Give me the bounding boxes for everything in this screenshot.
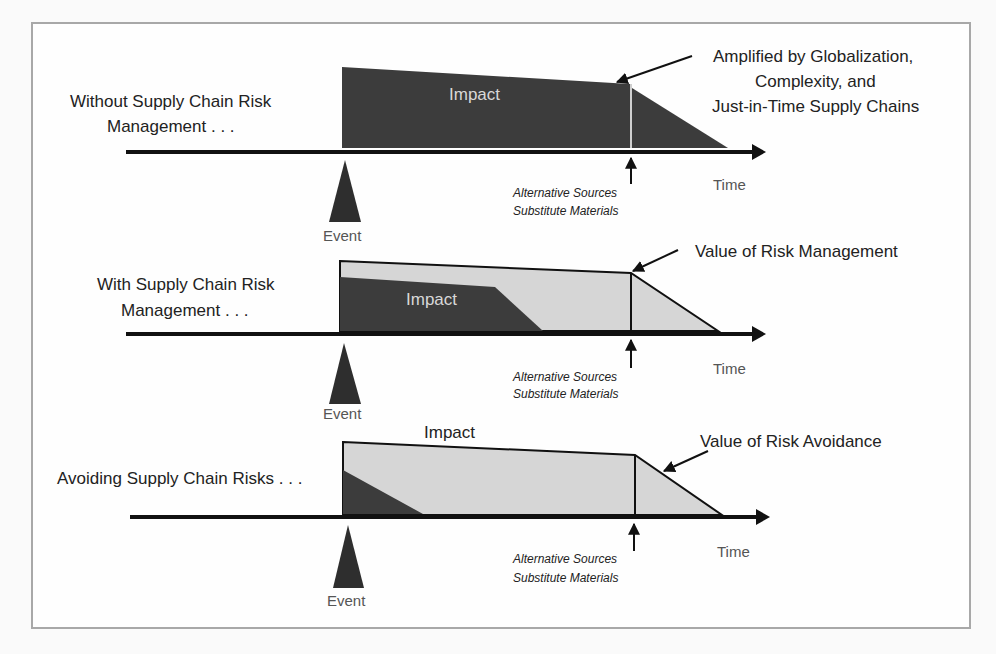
callout-line3: Just-in-Time Supply Chains xyxy=(712,97,919,116)
impact-label: Impact xyxy=(406,290,457,309)
panel-without-risk-management: Without Supply Chain Risk Management . .… xyxy=(70,47,919,244)
panel-title-line1: Without Supply Chain Risk xyxy=(70,92,272,111)
alt-sources-label-line1: Alternative Sources xyxy=(512,552,617,566)
callout-arrow-icon xyxy=(617,56,692,82)
event-label: Event xyxy=(323,405,362,422)
panel-title-line2: Management . . . xyxy=(121,301,249,320)
callout-line1: Value of Risk Management xyxy=(695,242,898,261)
panel-title-line1: With Supply Chain Risk xyxy=(97,275,275,294)
event-triangle-icon xyxy=(333,525,364,588)
event-label: Event xyxy=(327,592,366,609)
panel-with-risk-management: With Supply Chain Risk Management . . . … xyxy=(97,242,898,422)
impact-area xyxy=(342,67,630,148)
alt-sources-label-line2: Substitute Materials xyxy=(513,204,618,218)
alt-sources-label-line2: Substitute Materials xyxy=(513,387,618,401)
callout-arrow-icon xyxy=(633,250,678,271)
panel-title-line2: Management . . . xyxy=(107,117,235,136)
time-axis-arrowhead-icon xyxy=(752,326,766,342)
alt-sources-label-line1: Alternative Sources xyxy=(512,370,617,384)
time-label: Time xyxy=(713,360,746,377)
time-label: Time xyxy=(713,176,746,193)
impact-label: Impact xyxy=(424,423,475,442)
time-axis-arrowhead-icon xyxy=(756,509,770,525)
event-triangle-icon xyxy=(329,160,361,222)
callout-line1: Amplified by Globalization, xyxy=(713,47,913,66)
panel-avoiding-risks: Avoiding Supply Chain Risks . . . Impact… xyxy=(57,423,882,609)
risk-timeline-diagram: Without Supply Chain Risk Management . .… xyxy=(0,0,996,654)
time-axis-arrowhead-icon xyxy=(752,144,766,160)
event-label: Event xyxy=(323,227,362,244)
impact-label: Impact xyxy=(449,85,500,104)
alt-sources-label-line2: Substitute Materials xyxy=(513,571,618,585)
callout-arrow-icon xyxy=(664,451,708,471)
time-label: Time xyxy=(717,543,750,560)
alt-sources-label-line1: Alternative Sources xyxy=(512,186,617,200)
callout-line1: Value of Risk Avoidance xyxy=(700,432,882,451)
panel-title-line1: Avoiding Supply Chain Risks . . . xyxy=(57,469,302,488)
callout-line2: Complexity, and xyxy=(755,72,876,91)
event-triangle-icon xyxy=(329,343,361,404)
